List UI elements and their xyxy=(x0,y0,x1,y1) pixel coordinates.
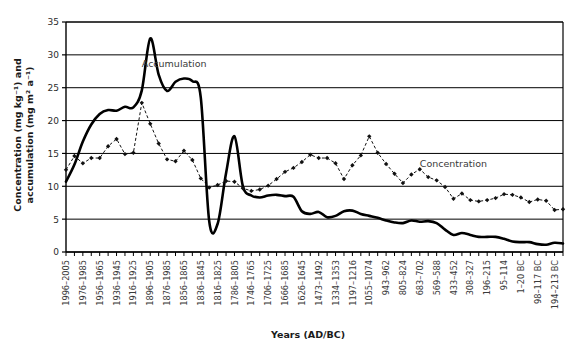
x-axis-tick-label-text: 1816–1825 xyxy=(213,260,223,306)
x-axis-tick-label: 1936–1945 xyxy=(112,260,122,306)
chart-canvas: 051015202530351996–20051976–19851956–196… xyxy=(0,0,574,353)
series-marker-concentration xyxy=(519,195,523,199)
x-axis-tick-label: 1916–1925 xyxy=(128,260,138,306)
x-axis-tick-label: 1816–1825 xyxy=(213,260,223,306)
x-axis-tick-label: 1334–1353 xyxy=(331,260,341,306)
series-marker-concentration xyxy=(317,156,321,160)
y-axis-tick-label: 0 xyxy=(53,247,59,257)
y-axis-tick-label: 5 xyxy=(53,215,59,225)
series-marker-concentration xyxy=(384,162,388,166)
series-marker-concentration xyxy=(502,192,506,196)
y-axis-tick-label: 30 xyxy=(48,50,60,60)
x-axis-tick-label: 1786–1805 xyxy=(230,260,240,306)
x-axis-tick-label: 683–702 xyxy=(415,260,425,295)
x-axis-tick-label: 1836–1845 xyxy=(196,260,206,306)
x-axis-tick-label-text: 1786–1805 xyxy=(230,260,240,306)
series-marker-concentration xyxy=(249,189,253,193)
x-axis-tick-label-text: 1666–1685 xyxy=(280,260,290,306)
x-axis-tick-label-text: 569–588 xyxy=(432,260,442,295)
series-line-concentration xyxy=(66,103,563,210)
y-axis-tick-label: 35 xyxy=(48,17,59,27)
x-axis-tick-label: 1666–1685 xyxy=(280,260,290,306)
series-marker-concentration xyxy=(350,163,354,167)
series-marker-concentration xyxy=(527,200,531,204)
series-marker-concentration xyxy=(156,141,160,145)
x-axis-tick-label-text: 1876–1985 xyxy=(162,260,172,306)
series-marker-concentration xyxy=(140,101,144,105)
y-axis-tick-label: 15 xyxy=(48,149,59,159)
x-axis-tick-label: 943–962 xyxy=(381,260,391,295)
series-marker-concentration xyxy=(536,197,540,201)
x-axis-tick-label: 1896–1905 xyxy=(145,260,155,306)
x-axis-title-text: Years (AD/BC) xyxy=(271,329,345,340)
y-axis-title-line2: accumulation (mg m² a⁻¹) xyxy=(24,58,36,211)
x-axis-tick-label-text: 1856–1865 xyxy=(179,260,189,306)
series-marker-concentration xyxy=(165,157,169,161)
series-marker-concentration xyxy=(510,193,514,197)
x-axis-tick-label: 1876–1985 xyxy=(162,260,172,306)
x-axis-tick-label: 1746–1765 xyxy=(246,260,256,306)
x-axis-tick-label: 1–20 BC xyxy=(516,260,526,294)
figure-root: Concentration (mg kg⁻¹) and accumulation… xyxy=(0,0,574,353)
x-axis-tick-label-text: 1836–1845 xyxy=(196,260,206,306)
series-marker-concentration xyxy=(367,134,371,138)
series-marker-concentration xyxy=(342,177,346,181)
series-marker-concentration xyxy=(266,183,270,187)
x-axis-tick-label-text: 683–702 xyxy=(415,260,425,295)
x-axis-tick-label-text: 1626–1645 xyxy=(297,260,307,306)
x-axis-tick-label-text: 98–117 BC xyxy=(533,260,543,304)
x-axis-tick-label: 1055–1074 xyxy=(364,260,374,306)
x-axis-tick-label: 1706–1725 xyxy=(263,260,273,306)
x-axis-tick-label-text: 1976–1985 xyxy=(78,260,88,306)
series-line-accumulation xyxy=(66,38,563,245)
series-marker-concentration xyxy=(443,185,447,189)
series-marker-concentration xyxy=(291,166,295,170)
annotation-accumulation: Accumulation xyxy=(142,58,207,69)
series-marker-concentration xyxy=(131,151,135,155)
x-axis-tick-label: 308–327 xyxy=(465,260,475,295)
x-axis-tick-label: 805–824 xyxy=(398,260,408,295)
x-axis-tick-label-text: 943–962 xyxy=(381,260,391,295)
y-axis-tick-label: 25 xyxy=(48,83,59,93)
series-marker-concentration xyxy=(434,178,438,182)
series-marker-concentration xyxy=(485,198,489,202)
y-axis-tick-label: 20 xyxy=(48,116,60,126)
x-axis-tick-label: 1626–1645 xyxy=(297,260,307,306)
series-marker-concentration xyxy=(148,122,152,126)
series-marker-concentration xyxy=(544,199,548,203)
y-axis-tick-label: 10 xyxy=(48,182,60,192)
annotation-concentration: Concentration xyxy=(420,158,487,169)
x-axis-tick-label: 98–117 BC xyxy=(533,260,543,304)
x-axis-tick-label-text: 1746–1765 xyxy=(246,260,256,306)
x-axis-tick-label: 1473–1492 xyxy=(314,260,324,306)
x-axis-tick-label-text: 1916–1925 xyxy=(128,260,138,306)
y-axis-title: Concentration (mg kg⁻¹) and accumulation… xyxy=(0,0,48,270)
series-marker-concentration xyxy=(493,196,497,200)
x-axis-tick-label-text: 1473–1492 xyxy=(314,260,324,306)
x-axis-tick-label: 433–452 xyxy=(449,260,459,295)
series-marker-concentration xyxy=(561,207,565,211)
x-axis-tick-label-text: 95–114 xyxy=(499,260,509,290)
x-axis-tick-label-text: 308–327 xyxy=(465,260,475,295)
x-axis-tick-label: 1976–1985 xyxy=(78,260,88,306)
series-marker-concentration xyxy=(232,179,236,183)
series-marker-concentration xyxy=(258,187,262,191)
x-axis-tick-label-text: 433–452 xyxy=(449,260,459,295)
y-axis-title-line1: Concentration (mg kg⁻¹) and xyxy=(12,58,24,211)
x-axis-tick-label-text: 1896–1905 xyxy=(145,260,155,306)
series-marker-concentration xyxy=(89,156,93,160)
series-marker-concentration xyxy=(81,161,85,165)
x-axis-tick-label-text: 1956–1965 xyxy=(95,260,105,306)
x-axis-tick-label: 1856–1865 xyxy=(179,260,189,306)
x-axis-tick-label-text: 805–824 xyxy=(398,260,408,295)
series-marker-concentration xyxy=(64,168,68,172)
x-axis-tick-label: 569–588 xyxy=(432,260,442,295)
x-axis-tick-label: 194–213 BC xyxy=(550,260,560,309)
x-axis-tick-label: 196–215 xyxy=(482,260,492,295)
series-marker-concentration xyxy=(375,151,379,155)
series-marker-concentration xyxy=(123,152,127,156)
x-axis-tick-label-text: 1055–1074 xyxy=(364,260,374,306)
x-axis-tick-label: 95–114 xyxy=(499,260,509,290)
x-axis-tick-label-text: 1706–1725 xyxy=(263,260,273,306)
x-axis-tick-label: 1956–1965 xyxy=(95,260,105,306)
